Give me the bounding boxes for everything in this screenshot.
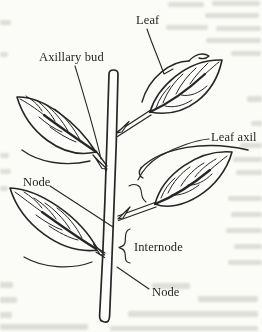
label-node-lower: Node — [152, 286, 179, 299]
bud-node-1 — [117, 122, 129, 134]
leaf-lower-left-curl — [24, 257, 92, 267]
label-leaf-axil: Leaf axil — [211, 131, 257, 144]
node-lower-pointer-line — [117, 267, 149, 289]
internode-brace — [119, 229, 130, 263]
stem — [100, 70, 118, 322]
label-axillary-bud: Axillary bud — [39, 51, 104, 64]
pointer-lines — [50, 29, 209, 289]
leaf-axil-mark — [129, 185, 146, 202]
leaf-blades — [10, 60, 232, 251]
label-node-upper: Node — [23, 176, 50, 189]
label-internode: Internode — [134, 241, 183, 254]
figure-canvas: Leaf Axillary bud Leaf axil Node Interno… — [0, 0, 262, 332]
leaf-upper-right-curl-tip — [189, 54, 209, 61]
label-leaf: Leaf — [136, 14, 159, 27]
